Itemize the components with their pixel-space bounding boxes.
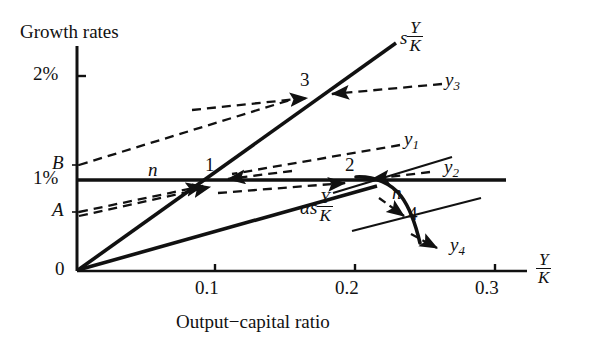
x-tick-label-0-3: 0.3 — [475, 278, 499, 297]
x-tick-label-0-2: 0.2 — [335, 278, 359, 297]
label-y2: y2 — [444, 157, 459, 179]
label-y3-sub: 3 — [453, 78, 460, 93]
diagram-canvas — [0, 0, 590, 352]
equilibrium-label-2: 2 — [345, 155, 355, 174]
y-axis-title: Growth rates — [20, 22, 119, 41]
series-y3-path — [192, 84, 442, 110]
series-B-path — [79, 97, 300, 165]
x-axis-label-den: K — [536, 268, 551, 286]
label-savings-line: s Y K — [400, 20, 423, 56]
y-marker-label-A: A — [52, 200, 64, 219]
series-arrow-into-1 — [228, 171, 292, 179]
label-y1-sub: 1 — [412, 137, 419, 152]
x-axis-caption: Output−capital ratio — [176, 312, 330, 331]
savings-line-num: Y — [407, 19, 422, 36]
label-n-curve: n — [392, 183, 402, 202]
equilibrium-label-1: 1 — [205, 155, 215, 174]
growth-model-diagram: Growth rates 2% 1% B A 0 0.1 0.2 0.3 Y K… — [0, 0, 590, 352]
x-axis-label-yk: Y K — [536, 252, 551, 288]
label-n-horizontal: n — [148, 160, 158, 179]
alpha-savings-den: K — [317, 206, 332, 224]
savings-line-prefix: s — [400, 27, 407, 48]
label-y4-sub: 4 — [458, 243, 465, 258]
x-axis-label-num: Y — [536, 251, 551, 268]
label-alpha-savings-line: αs Y K — [300, 190, 333, 226]
label-y3: y3 — [445, 70, 460, 92]
label-y1: y1 — [404, 129, 419, 151]
origin-label: 0 — [55, 259, 65, 278]
label-y4: y4 — [450, 235, 465, 257]
savings-line-den: K — [407, 36, 422, 54]
label-y2-sub: 2 — [452, 165, 459, 180]
y-tick-label-2pct: 2% — [33, 64, 58, 83]
alpha-savings-num: Y — [317, 189, 332, 206]
equilibrium-label-4: 4 — [408, 204, 418, 223]
y-marker-label-B: B — [52, 153, 64, 172]
equilibrium-label-3: 3 — [300, 70, 310, 89]
x-tick-label-0-1: 0.1 — [195, 278, 219, 297]
alpha-savings-prefix: αs — [300, 197, 317, 218]
